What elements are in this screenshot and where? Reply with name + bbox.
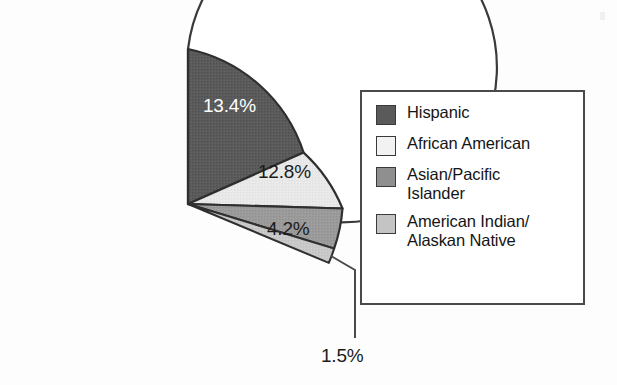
- pie-chart-figure: 13.4% 12.8% 4.2% 1.5% Hispanic African A…: [0, 0, 617, 385]
- slice-label-african-american: 12.8%: [258, 161, 311, 183]
- slice-label-hispanic: 13.4%: [203, 95, 256, 117]
- slice-label-asian-pacific: 4.2%: [267, 218, 310, 240]
- legend-swatch-african-american: [376, 136, 396, 156]
- legend-item-hispanic[interactable]: Hispanic: [376, 103, 576, 125]
- legend-label-african-american: African American: [407, 134, 530, 153]
- legend-item-american-indian[interactable]: American Indian/ Alaskan Native: [376, 212, 576, 250]
- legend-swatch-hispanic: [376, 105, 396, 125]
- legend-label-asian-pacific: Asian/Pacific Islander: [407, 165, 500, 203]
- legend-swatch-american-indian: [376, 214, 396, 234]
- legend-label-american-indian: American Indian/ Alaskan Native: [407, 212, 529, 250]
- slice-label-american-indian: 1.5%: [321, 345, 364, 367]
- callout-leader-line-1-5-percent: [331, 256, 355, 338]
- legend-item-african-american[interactable]: African American: [376, 134, 576, 156]
- legend-swatch-asian-pacific: [376, 167, 396, 187]
- legend-item-asian-pacific[interactable]: Asian/Pacific Islander: [376, 165, 576, 203]
- legend: Hispanic African American Asian/Pacific …: [360, 90, 585, 305]
- legend-label-hispanic: Hispanic: [407, 103, 469, 122]
- scan-artifact: [600, 12, 605, 20]
